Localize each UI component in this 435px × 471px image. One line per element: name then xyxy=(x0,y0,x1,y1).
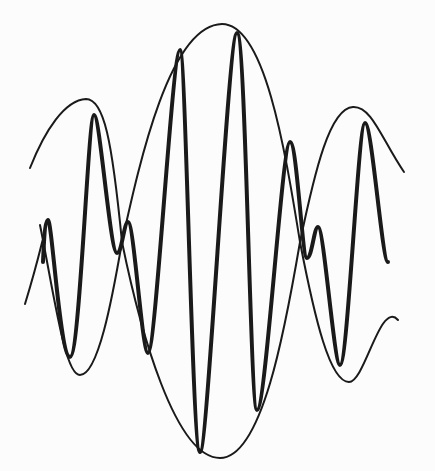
modulated-wave-diagram xyxy=(0,0,435,471)
carrier-wave xyxy=(43,33,388,452)
